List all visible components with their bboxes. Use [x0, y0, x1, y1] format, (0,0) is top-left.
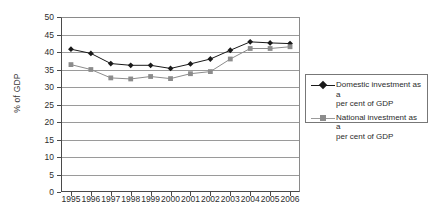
x-axis-tick-mark — [230, 192, 231, 196]
data-point — [148, 74, 153, 79]
series-2 — [69, 44, 293, 81]
data-point — [228, 57, 233, 62]
series-1 — [68, 39, 293, 71]
series-line — [71, 47, 290, 79]
data-point — [69, 62, 74, 67]
legend-label-national-line2: per cent of GDP — [336, 132, 423, 142]
x-axis-tick-mark — [190, 192, 191, 196]
data-point — [108, 61, 114, 67]
legend-item-domestic[interactable]: Domestic investment as a per cent of GDP — [310, 80, 423, 109]
data-point — [188, 71, 193, 76]
x-axis-tick-mark — [131, 192, 132, 196]
series-line — [71, 42, 290, 69]
legend-marker-diamond-icon — [310, 81, 336, 91]
data-point — [168, 76, 173, 81]
y-axis-tick-label: 40 — [14, 47, 54, 57]
plot-area — [61, 17, 300, 192]
x-axis-tick-mark — [290, 192, 291, 196]
chart-container: % of GDP 05101520253035404550 1995199619… — [0, 0, 437, 214]
data-point — [227, 47, 233, 53]
legend-label-national-line1: National investment as a — [336, 113, 423, 132]
x-axis-tick-mark — [250, 192, 251, 196]
data-point — [148, 62, 154, 68]
y-axis-tick-label: 10 — [14, 152, 54, 162]
legend-label-national: National investment as a per cent of GDP — [336, 113, 423, 142]
data-point — [188, 61, 194, 67]
x-axis-tick-mark — [91, 192, 92, 196]
legend-label-domestic-line1: Domestic investment as a — [336, 80, 423, 99]
x-axis-tick-mark — [171, 192, 172, 196]
data-point — [207, 56, 213, 62]
x-axis-tick-mark — [71, 192, 72, 196]
data-point — [128, 77, 133, 82]
legend-marker-square-icon — [310, 114, 336, 124]
y-axis-tick-label: 25 — [14, 100, 54, 110]
y-axis-tick-label: 20 — [14, 117, 54, 127]
x-axis-tick-mark — [210, 192, 211, 196]
series-layer — [61, 17, 300, 192]
legend-label-domestic-line2: per cent of GDP — [336, 99, 423, 109]
data-point — [267, 40, 273, 46]
data-point — [288, 44, 293, 49]
x-axis-tick-mark — [151, 192, 152, 196]
y-axis-tick-label: 30 — [14, 82, 54, 92]
y-axis-tick-label: 50 — [14, 12, 54, 22]
data-point — [128, 62, 134, 68]
chart-legend: Domestic investment as a per cent of GDP… — [305, 74, 428, 123]
y-axis-tick-label: 35 — [14, 65, 54, 75]
data-point — [268, 46, 273, 51]
data-point — [68, 46, 74, 52]
y-axis-tick-label: 45 — [14, 30, 54, 40]
y-axis-tick-label: 5 — [14, 170, 54, 180]
y-axis-tick-label: 0 — [14, 187, 54, 197]
legend-label-domestic: Domestic investment as a per cent of GDP — [336, 80, 423, 109]
data-point — [208, 69, 213, 74]
y-axis-tick-mark — [57, 192, 61, 193]
data-point — [88, 51, 94, 57]
data-point — [248, 46, 253, 51]
legend-item-national[interactable]: National investment as a per cent of GDP — [310, 113, 423, 142]
data-point — [247, 39, 253, 45]
data-point — [168, 66, 174, 72]
data-point — [108, 76, 113, 81]
x-axis-tick-mark — [270, 192, 271, 196]
y-axis-tick-label: 15 — [14, 135, 54, 145]
x-axis-tick-mark — [111, 192, 112, 196]
data-point — [88, 67, 93, 72]
